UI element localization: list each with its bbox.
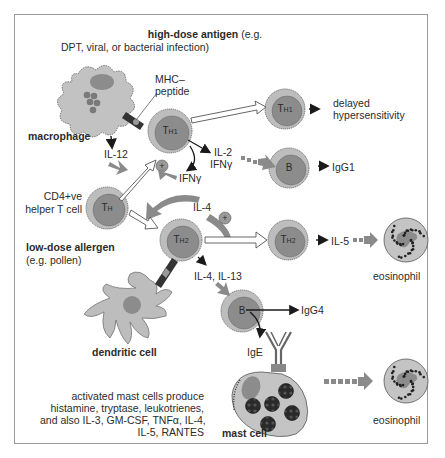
arrow-th1-il2 — [188, 140, 209, 152]
arrow-il13-b — [215, 282, 230, 296]
arrow-il12-th — [108, 160, 128, 175]
delayed-label-2: hypersensitivity — [333, 109, 405, 121]
arrow-th2-to-th2 — [205, 232, 267, 248]
plus-sign-1: + — [156, 160, 168, 172]
il4-label: IL-4 — [193, 201, 211, 213]
arrow-th-to-th1 — [119, 160, 156, 201]
dendritic-label: dendritic cell — [92, 346, 157, 358]
th2-right-cell-label: TH2 — [268, 234, 308, 247]
delayed-label-1: delayed — [333, 97, 370, 109]
th1-right-cell-label: TH1 — [265, 103, 305, 116]
helper-label-1: CD4+ve — [20, 190, 82, 202]
arrow-th1-to-th1 — [191, 101, 266, 123]
mast-cell-label: mast cell — [222, 427, 267, 439]
title-rest: (e.g. — [238, 28, 262, 40]
b-cell-bottom-label: B — [222, 305, 262, 317]
arrow-th1-ifng — [188, 146, 195, 170]
igg4-label: IgG4 — [301, 304, 324, 316]
helper-label-2: helper T cell — [10, 203, 82, 215]
eosinophil-label-2: eosinophil — [373, 414, 420, 426]
dashed-arrow-il5-eosinophil — [353, 232, 378, 248]
low-dose-label-1: low-dose allergen — [26, 241, 115, 253]
ifng-label: IFNγ — [179, 172, 201, 184]
igg1-label: IgG1 — [332, 161, 355, 173]
eosinophil-1 — [384, 218, 428, 262]
mhc-label-2: peptide — [155, 85, 189, 97]
eosinophil-label-1: eosinophil — [373, 270, 420, 282]
il4-il13-label: IL-4, IL-13 — [194, 270, 242, 282]
th1-cell-label: TH1 — [150, 125, 190, 138]
dashed-arrow-mast-eosinophil — [324, 372, 373, 390]
th-cell-label: TH — [87, 202, 127, 215]
title-line1: high-dose antigen (e.g. — [90, 28, 320, 40]
il2-label: IL-2 — [214, 146, 232, 158]
low-dose-label-2: (e.g. pollen) — [26, 254, 81, 266]
mast-text-3: and also IL-3, GM-CSF, TNFα, IL-4, — [40, 414, 204, 426]
macrophage-cell — [57, 65, 134, 137]
arrow-th2-il4 — [198, 257, 205, 264]
arrow-macrophage-il12 — [111, 136, 112, 147]
ige-label: IgE — [247, 346, 263, 358]
arrow-il4-feedback — [146, 195, 200, 220]
il12-label: IL-12 — [104, 148, 128, 160]
mhc-label-1: MHC– — [155, 73, 185, 85]
mast-text-4: IL-5, RANTES — [40, 426, 204, 438]
il5-label: IL-5 — [331, 235, 349, 247]
title-line2: DPT, viral, or bacterial infection) — [55, 41, 215, 53]
plus-sign-2: + — [219, 212, 231, 224]
ige-antibody — [266, 332, 291, 372]
eosinophil-2 — [384, 359, 428, 403]
dendritic-cell — [84, 258, 178, 344]
th2-cell-label: TH2 — [161, 234, 201, 247]
b-cell-top-label: B — [269, 162, 309, 174]
mast-text-2: histamine, tryptase, leukotrienes, — [40, 402, 204, 414]
ifng2-label: IFNγ — [210, 158, 232, 170]
macrophage-label: macrophage — [28, 130, 90, 142]
title-bold: high-dose antigen — [148, 28, 238, 40]
mast-text-1: activated mast cells produce — [40, 390, 204, 402]
